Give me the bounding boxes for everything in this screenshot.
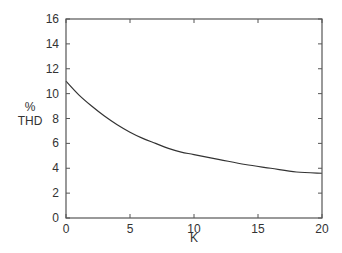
tick-labels: 051015200246810121416 [46,12,329,236]
y-tick-label: 4 [52,161,59,175]
y-tick-label: 12 [46,62,60,76]
y-axis-label-percent: % [5,100,55,114]
plot-frame [66,19,322,218]
x-tick-label: 5 [127,222,134,236]
x-tick-label: 0 [63,222,70,236]
thd-curve [66,81,322,173]
x-tick-label: 20 [315,222,329,236]
y-tick-label: 0 [52,211,59,225]
y-tick-label: 10 [46,87,60,101]
y-tick-label: 2 [52,186,59,200]
axis-ticks [66,19,322,218]
x-tick-label: 15 [251,222,265,236]
y-tick-label: 14 [46,37,60,51]
y-axis-label-thd: THD [5,114,55,128]
x-axis-label: K [190,231,198,245]
y-tick-label: 6 [52,136,59,150]
y-tick-label: 16 [46,12,60,26]
